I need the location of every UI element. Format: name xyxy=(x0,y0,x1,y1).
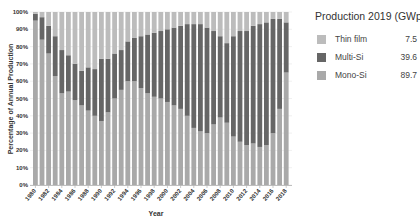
bar-segment-mono-si xyxy=(152,97,157,185)
y-tick-label: 50% xyxy=(16,96,29,102)
bar-segment-mono-si xyxy=(99,121,104,185)
bar-segment-mono-si xyxy=(92,116,97,185)
y-tick-label: 100% xyxy=(13,9,29,15)
legend-item-multi-si: Multi-Si 39.6 xyxy=(315,48,420,66)
bar-segment-thin-film xyxy=(132,12,137,38)
bar-segment-multi-si xyxy=(271,19,276,133)
bar-segment-mono-si xyxy=(271,133,276,185)
x-axis-title: Year xyxy=(149,210,164,217)
bar-2008 xyxy=(218,12,223,185)
bar-segment-multi-si xyxy=(165,29,170,102)
bar-segment-thin-film xyxy=(191,12,196,24)
bar-segment-multi-si xyxy=(172,28,177,106)
y-tick-label: 60% xyxy=(16,78,29,84)
x-tick-label: 2016 xyxy=(262,187,276,202)
bar-segment-multi-si xyxy=(191,24,196,128)
bar-segment-thin-film xyxy=(145,12,150,34)
bar-segment-multi-si xyxy=(205,28,210,134)
bar-segment-thin-film xyxy=(125,12,130,41)
bar-segment-mono-si xyxy=(106,112,111,185)
bar-segment-multi-si xyxy=(79,71,84,106)
bar-2001 xyxy=(172,12,177,185)
bar-2014 xyxy=(257,12,262,185)
y-axis-title: Percentage of Annual Production xyxy=(7,44,15,155)
legend-item-thin-film: Thin film 7.5 xyxy=(315,30,420,48)
bar-segment-thin-film xyxy=(139,12,144,36)
y-tick-label: 10% xyxy=(16,165,29,171)
bar-2017 xyxy=(277,12,282,185)
x-tick-label: 1986 xyxy=(64,187,78,202)
y-axis-ticks: 0%10%20%30%40%50%60%70%80%90%100% xyxy=(13,9,29,188)
bar-segment-mono-si xyxy=(244,145,249,185)
bar-segment-thin-film xyxy=(264,12,269,22)
bar-2002 xyxy=(178,12,183,185)
bar-segment-mono-si xyxy=(238,142,243,185)
bar-segment-mono-si xyxy=(40,40,45,185)
bar-segment-multi-si xyxy=(139,36,144,88)
bar-segment-multi-si xyxy=(277,19,282,109)
x-tick-label: 1996 xyxy=(130,187,144,202)
bar-segment-mono-si xyxy=(257,147,262,185)
bar-segment-mono-si xyxy=(139,88,144,185)
legend-item-mono-si: Mono-Si 89.7 xyxy=(315,66,420,84)
x-tick-label: 1982 xyxy=(37,187,51,202)
bar-segment-multi-si xyxy=(251,26,256,144)
bar-segment-multi-si xyxy=(238,31,243,142)
bar-segment-multi-si xyxy=(244,31,249,145)
bar-segment-multi-si xyxy=(40,17,45,39)
bar-segment-mono-si xyxy=(264,145,269,185)
bar-segment-thin-film xyxy=(152,12,157,33)
legend-title: Production 2019 (GWp) xyxy=(315,10,420,22)
bar-segment-multi-si xyxy=(33,14,38,21)
bar-segment-mono-si xyxy=(46,54,51,185)
bar-1988 xyxy=(86,12,91,185)
x-tick-label: 2010 xyxy=(222,187,236,202)
bar-segment-multi-si xyxy=(66,55,71,91)
bar-segment-thin-film xyxy=(205,12,210,28)
bar-segment-thin-film xyxy=(112,12,117,54)
thin-film-swatch xyxy=(317,35,326,44)
bar-segment-mono-si xyxy=(33,21,38,185)
bar-segment-mono-si xyxy=(79,105,84,185)
bar-2004 xyxy=(191,12,196,185)
legend-label: Multi-Si xyxy=(335,52,387,62)
bar-2006 xyxy=(205,12,210,185)
y-tick-label: 80% xyxy=(16,44,29,50)
bar-segment-multi-si xyxy=(53,36,58,76)
bar-2015 xyxy=(264,12,269,185)
bar-segment-thin-film xyxy=(33,12,38,14)
bar-1982 xyxy=(46,12,51,185)
bar-segment-mono-si xyxy=(205,133,210,185)
bar-segment-mono-si xyxy=(86,111,91,185)
bar-segment-thin-film xyxy=(59,12,64,50)
bar-2000 xyxy=(165,12,170,185)
bar-segment-mono-si xyxy=(59,93,64,185)
legend-value: 39.6 xyxy=(387,52,417,62)
bar-segment-multi-si xyxy=(152,33,157,97)
bar-segment-thin-film xyxy=(46,12,51,26)
bar-segment-thin-film xyxy=(158,12,163,31)
bar-2012 xyxy=(244,12,249,185)
bar-1998 xyxy=(152,12,157,185)
bar-segment-thin-film xyxy=(53,12,58,36)
bar-segment-multi-si xyxy=(185,24,190,116)
bar-segment-multi-si xyxy=(86,67,91,110)
x-tick-label: 1984 xyxy=(50,187,64,202)
y-tick-label: 0% xyxy=(19,182,28,188)
bar-segment-mono-si xyxy=(73,100,78,185)
bar-segment-mono-si xyxy=(119,90,124,185)
bar-segment-multi-si xyxy=(264,22,269,145)
bar-1983 xyxy=(53,12,58,185)
bar-segment-thin-film xyxy=(224,12,229,43)
bar-segment-thin-film xyxy=(284,12,289,22)
bar-segment-thin-film xyxy=(218,12,223,36)
x-tick-label: 2012 xyxy=(235,187,249,202)
bar-1981 xyxy=(40,12,45,185)
bar-segment-thin-film xyxy=(66,12,71,55)
bar-1991 xyxy=(106,12,111,185)
bar-segment-multi-si xyxy=(132,38,137,81)
bar-segment-thin-film xyxy=(165,12,170,29)
bar-segment-thin-film xyxy=(92,12,97,69)
bar-segment-multi-si xyxy=(224,43,229,123)
bar-segment-mono-si xyxy=(132,81,137,185)
